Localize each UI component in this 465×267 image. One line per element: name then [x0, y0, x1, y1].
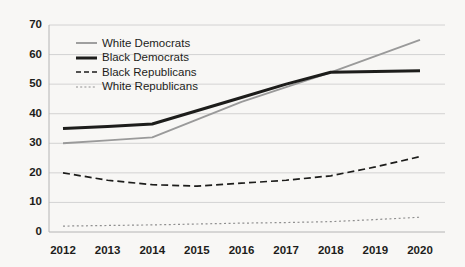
y-tick-10: 10 [29, 196, 42, 208]
x-tick-2012: 2012 [38, 245, 88, 257]
y-tick-50: 50 [29, 78, 42, 90]
legend-swatch-white-republicans [76, 82, 97, 92]
y-tick-70: 70 [29, 19, 42, 31]
y-tick-20: 20 [29, 167, 42, 179]
x-tick-2019: 2019 [350, 245, 400, 257]
y-tick-0: 0 [36, 226, 42, 238]
legend-label-white-democrats: White Democrats [102, 38, 190, 50]
series-line-black-republicans [63, 157, 420, 187]
x-tick-2017: 2017 [261, 245, 311, 257]
y-tick-40: 40 [29, 108, 42, 120]
x-tick-2014: 2014 [127, 245, 177, 257]
y-tick-30: 30 [29, 137, 42, 149]
legend-label-white-republicans: White Republicans [102, 81, 198, 93]
legend-item-white-democrats: White Democrats [76, 36, 198, 51]
legend-swatch-black-democrats [76, 53, 97, 63]
legend-item-black-republicans: Black Republicans [76, 65, 198, 80]
x-tick-2015: 2015 [172, 245, 222, 257]
x-tick-2013: 2013 [83, 245, 133, 257]
y-tick-60: 60 [29, 49, 42, 61]
legend-item-black-democrats: Black Democrats [76, 51, 198, 66]
x-tick-2020: 2020 [395, 245, 445, 257]
legend-label-black-democrats: Black Democrats [102, 52, 189, 64]
line-chart: 010203040506070 201220132014201520162017… [0, 0, 465, 267]
x-tick-2018: 2018 [306, 245, 356, 257]
series-line-white-republicans [63, 217, 420, 226]
legend-item-white-republicans: White Republicans [76, 80, 198, 95]
x-tick-2016: 2016 [217, 245, 267, 257]
legend-swatch-black-republicans [76, 67, 97, 77]
legend-label-black-republicans: Black Republicans [102, 67, 197, 79]
chart-legend: White Democrats Black Democrats Black Re… [76, 36, 198, 94]
plot-area [0, 0, 465, 267]
legend-swatch-white-democrats [76, 38, 97, 48]
